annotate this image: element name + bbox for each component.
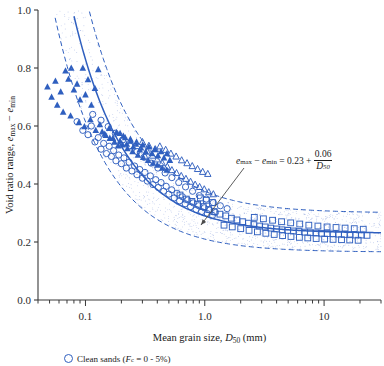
equation-annotation: emax − emin = 0.23 + 0.06 D50 — [236, 150, 332, 172]
svg-text:1.0: 1.0 — [198, 310, 212, 322]
legend: Clean sands (Fc = 0 - 5%) — [64, 348, 170, 366]
svg-text:Mean grain size, D50 (mm): Mean grain size, D50 (mm) — [153, 332, 267, 345]
legend-label-clean-sands: Clean sands (Fc = 0 - 5%) — [77, 354, 170, 364]
svg-text:Void ratio range, emax − emin: Void ratio range, emax − emin — [4, 96, 17, 214]
svg-text:1.0: 1.0 — [17, 4, 31, 16]
legend-marker-open-circle — [64, 354, 73, 363]
trend-curve-layer — [55, 12, 381, 252]
svg-text:0.6: 0.6 — [17, 120, 31, 132]
dotted-band-layer — [56, 11, 381, 252]
svg-text:0.1: 0.1 — [79, 310, 93, 322]
svg-text:10: 10 — [319, 310, 331, 322]
svg-text:0.0: 0.0 — [17, 294, 31, 306]
axis-label-layer: 0.00.20.40.60.81.00.11.010Mean grain siz… — [4, 4, 330, 345]
svg-text:0.4: 0.4 — [17, 178, 31, 190]
svg-text:0.2: 0.2 — [17, 236, 31, 248]
svg-text:0.8: 0.8 — [17, 62, 31, 74]
